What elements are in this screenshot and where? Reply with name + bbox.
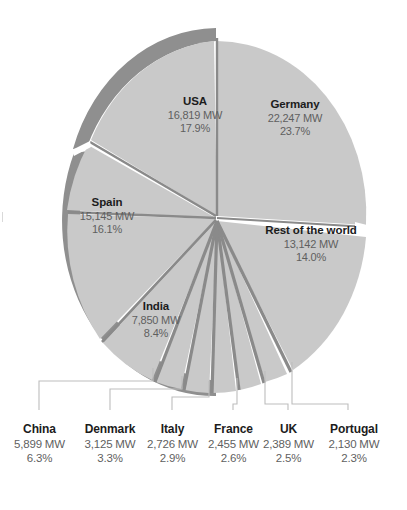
pie-label-germany-value: 22,247 MW [240, 112, 350, 125]
page-edge-artifact [2, 212, 3, 222]
pie-label-india-percent: 8.4% [104, 327, 208, 340]
pie-label-india-name: India [104, 300, 208, 314]
callout-label-portugal-percent: 2.3% [311, 451, 397, 465]
leader-line-portugal [292, 362, 348, 410]
pie-label-spain-name: Spain [55, 196, 159, 210]
pie-label-rest-of-the-world-percent: 14.0% [236, 251, 386, 264]
pie-chart-figure: USA 16,819 MW 17.9% Germany 22,247 MW 23… [0, 0, 407, 510]
callout-label-portugal-value: 2,130 MW [311, 437, 397, 451]
pie-label-rest-of-the-world-value: 13,142 MW [236, 238, 386, 251]
callout-label-portugal: Portugal 2,130 MW 2.3% [311, 422, 397, 465]
pie-label-rest-of-the-world: Rest of the world 13,142 MW 14.0% [236, 224, 386, 264]
pie-label-rest-of-the-world-name: Rest of the world [236, 224, 386, 238]
pie-label-usa-name: USA [140, 95, 250, 109]
pie-label-germany-percent: 23.7% [240, 125, 350, 138]
pie-label-spain-value: 15,145 MW [55, 210, 159, 223]
pie-label-usa-percent: 17.9% [140, 122, 250, 135]
pie-label-germany-name: Germany [240, 98, 350, 112]
pie-label-india-value: 7,850 MW [104, 314, 208, 327]
pie-label-germany: Germany 22,247 MW 23.7% [240, 98, 350, 138]
callout-label-portugal-name: Portugal [311, 422, 397, 437]
pie-label-usa-value: 16,819 MW [140, 109, 250, 122]
pie-label-india: India 7,850 MW 8.4% [104, 300, 208, 340]
pie-label-spain: Spain 15,145 MW 16.1% [55, 196, 159, 236]
pie-label-usa: USA 16,819 MW 17.9% [140, 95, 250, 135]
pie-label-spain-percent: 16.1% [55, 223, 159, 236]
